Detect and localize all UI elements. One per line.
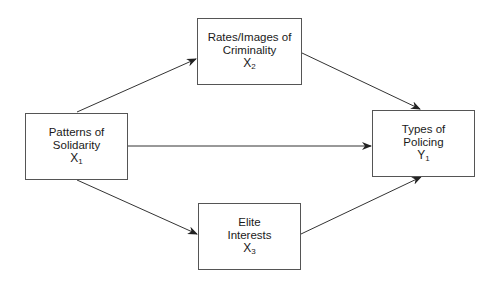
node-types-of-policing: Types of Policing Y1 [372,110,475,177]
node-rates-images-of-criminality: Rates/Images of Criminality X2 [197,18,302,85]
variable-label: X1 [70,152,82,168]
node-patterns-of-solidarity: Patterns of Solidarity X1 [25,113,128,180]
node-label-line1: Elite [238,216,260,229]
edge-x1-x2 [77,59,196,112]
node-label-line1: Patterns of [49,126,105,139]
variable-label: Y1 [417,149,429,165]
node-elite-interests: Elite Interests X3 [198,203,301,270]
variable-label: X3 [243,242,255,258]
edge-x1-x3 [77,180,197,234]
node-label-line1: Types of [402,123,445,136]
edge-x3-y1 [301,177,421,234]
variable-label: X2 [243,57,255,73]
edge-x2-y1 [302,53,420,109]
node-label-line1: Rates/Images of [208,31,292,44]
